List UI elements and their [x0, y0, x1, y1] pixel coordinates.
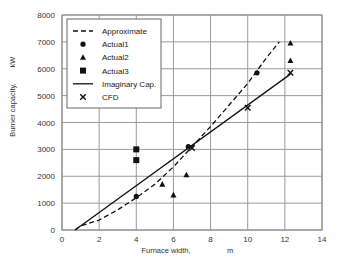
legend-label: Approximate: [102, 27, 147, 36]
y-tick-label: 8000: [37, 11, 55, 20]
triangle-marker: [287, 40, 293, 46]
square-marker: [133, 146, 139, 152]
circle-marker: [80, 42, 85, 47]
y-tick-label: 0: [51, 226, 56, 235]
triangle-marker: [183, 172, 189, 178]
triangle-marker: [287, 57, 293, 63]
x-tick-label: 4: [134, 235, 139, 244]
triangle-marker: [170, 192, 176, 198]
x-tick-label: 14: [318, 235, 327, 244]
x-tick-label: 0: [60, 235, 65, 244]
x-axis-unit: m: [227, 246, 233, 255]
y-tick-label: 4000: [37, 119, 55, 128]
y-tick-label: 5000: [37, 92, 55, 101]
legend-label: CFD: [102, 93, 119, 102]
legend-label: Actual1: [102, 40, 129, 49]
y-tick-label: 2000: [37, 172, 55, 181]
y-tick-label: 6000: [37, 65, 55, 74]
y-axis-unit: kW: [8, 56, 17, 68]
triangle-marker: [159, 181, 165, 187]
legend-label: Actual3: [102, 67, 129, 76]
y-tick-label: 3000: [37, 145, 55, 154]
y-axis-label: Burner capacity,: [8, 83, 17, 137]
legend-label: Actual2: [102, 53, 129, 62]
x-tick-label: 8: [208, 235, 213, 244]
y-tick-label: 1000: [37, 199, 55, 208]
legend: ApproximateActual1Actual2Actual3Imaginar…: [67, 19, 161, 108]
y-tick-label: 7000: [37, 38, 55, 47]
x-tick-label: 2: [97, 235, 102, 244]
square-marker: [80, 68, 86, 74]
circle-marker: [254, 70, 259, 75]
series-actual2: [159, 40, 293, 197]
chart: 0246810121401000200030004000500060007000…: [0, 0, 342, 267]
x-axis-label: Furnace width,: [141, 246, 190, 255]
x-tick-label: 12: [280, 235, 289, 244]
x-tick-label: 6: [171, 235, 176, 244]
square-marker: [133, 157, 139, 163]
circle-marker: [134, 194, 139, 199]
x-tick-label: 10: [243, 235, 252, 244]
legend-label: Imaginary Cap.: [102, 80, 156, 89]
